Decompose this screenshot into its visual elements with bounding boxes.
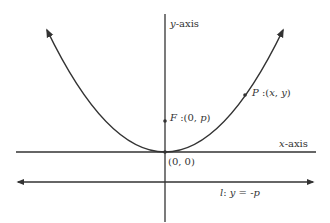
directrix-rhs: p: [254, 187, 260, 198]
y-axis-label: y-axis: [170, 19, 199, 29]
focus-name: F: [170, 112, 177, 123]
directrix-label: l: y = -p: [220, 188, 260, 198]
vertex-point: [163, 150, 167, 154]
parabola-diagram: [0, 0, 330, 223]
focus-point: [163, 119, 167, 123]
origin-label: (0, 0): [168, 157, 195, 167]
focus-sep: :(: [177, 112, 187, 123]
point-p: [243, 93, 247, 97]
point-sep: :(: [259, 87, 269, 98]
focus-close: ): [207, 112, 211, 123]
point-close: ): [287, 87, 291, 98]
y-axis-rest: -axis: [176, 18, 199, 29]
focus-label: F :(0, p): [170, 113, 210, 123]
focus-coords: 0,: [187, 112, 200, 123]
x-axis-rest: -axis: [285, 138, 308, 149]
directrix-eq: = -: [235, 187, 253, 198]
x-axis-label: x-axis: [279, 139, 308, 149]
point-p-label: P :(x, y): [252, 88, 291, 98]
point-name: P: [252, 87, 259, 98]
